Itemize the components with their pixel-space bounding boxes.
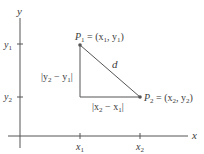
x2-label: x2	[135, 141, 144, 154]
y2-label: y2	[3, 91, 12, 104]
distance-diagram: y x y1 y2 x1 x2 P1 = (x1, y1) P2 = (x2, …	[0, 0, 204, 154]
x-axis-label: x	[191, 129, 197, 141]
distance-label: d	[112, 58, 118, 70]
y-axis-label: y	[16, 5, 22, 17]
p2-label: P2 = (x2, y2)	[143, 92, 193, 105]
y1-label: y1	[3, 39, 12, 52]
horizontal-leg-label: |x2 − x1|	[92, 101, 124, 114]
hypotenuse	[80, 45, 140, 97]
point-p2	[138, 95, 142, 99]
p1-label: P1 = (x1, y1)	[74, 31, 124, 44]
x1-label: x1	[75, 141, 84, 154]
vertical-leg-label: |y2 − y1|	[41, 71, 73, 84]
